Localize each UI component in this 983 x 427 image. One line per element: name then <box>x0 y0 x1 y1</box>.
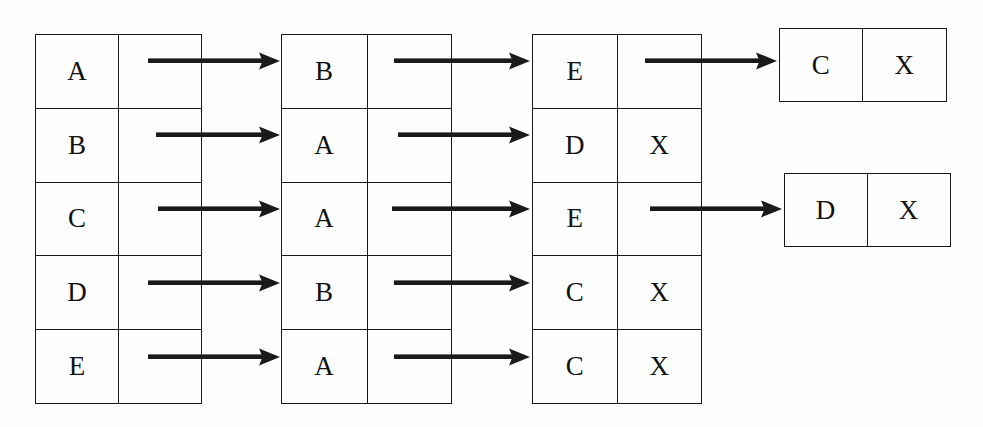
table-row: CX <box>533 330 701 403</box>
table-row: E <box>36 330 201 403</box>
table-row: B <box>282 35 451 109</box>
cell-value <box>119 183 201 256</box>
cell-value <box>119 35 201 108</box>
cell-key: A <box>282 183 368 256</box>
table-row: A <box>282 330 451 403</box>
table-2: BAABA <box>281 34 452 404</box>
cell-key: A <box>282 109 368 182</box>
cell-key: D <box>36 256 119 329</box>
table-row: C <box>36 183 201 257</box>
table-row: A <box>282 183 451 257</box>
table-row: B <box>36 109 201 183</box>
cell-value <box>368 330 452 403</box>
cell-key: E <box>36 330 119 403</box>
cell-key: A <box>36 35 119 108</box>
cell-value <box>618 183 701 256</box>
cell-value <box>618 35 701 108</box>
table-row: B <box>282 256 451 330</box>
cell-key: B <box>282 35 368 108</box>
cell-value: X <box>618 330 701 403</box>
table-row: A <box>36 35 201 109</box>
cell-key: B <box>282 256 368 329</box>
table-row: A <box>282 109 451 183</box>
cell-value <box>119 256 201 329</box>
cell-key: C <box>36 183 119 256</box>
table-row: DX <box>533 109 701 183</box>
cell-value: X <box>863 29 946 101</box>
cell-value <box>368 109 452 182</box>
cell-key: D <box>785 174 868 246</box>
cell-value <box>368 256 452 329</box>
table-row: CX <box>533 256 701 330</box>
box-c-x: CX <box>779 28 947 102</box>
cell-value <box>119 330 201 403</box>
table-1: ABCDE <box>35 34 202 404</box>
cell-value: X <box>618 256 701 329</box>
cell-key: D <box>533 109 618 182</box>
table-row: E <box>533 35 701 109</box>
table-3: EDXECXCX <box>532 34 702 404</box>
cell-value <box>368 35 452 108</box>
cell-key: B <box>36 109 119 182</box>
cell-key: C <box>533 256 618 329</box>
cell-value <box>368 183 452 256</box>
table-row: E <box>533 183 701 257</box>
diagram-canvas: ABCDEBAABAEDXECXCXCXDX <box>0 0 983 427</box>
cell-key: C <box>780 29 863 101</box>
cell-key: E <box>533 35 618 108</box>
box-d-x: DX <box>784 173 951 247</box>
table-row: D <box>36 256 201 330</box>
cell-value <box>119 109 201 182</box>
cell-key: E <box>533 183 618 256</box>
cell-key: C <box>533 330 618 403</box>
cell-key: A <box>282 330 368 403</box>
cell-value: X <box>618 109 701 182</box>
cell-value: X <box>868 174 951 246</box>
